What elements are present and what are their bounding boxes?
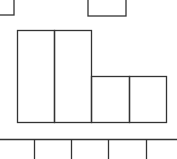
tall-box-1 bbox=[18, 31, 55, 123]
short-box-1 bbox=[92, 77, 130, 123]
tall-box-2 bbox=[55, 31, 92, 123]
short-box-2 bbox=[130, 77, 167, 123]
partial-box-right bbox=[88, 0, 126, 16]
partial-box-left bbox=[0, 0, 14, 15]
diagram-canvas bbox=[0, 0, 177, 159]
